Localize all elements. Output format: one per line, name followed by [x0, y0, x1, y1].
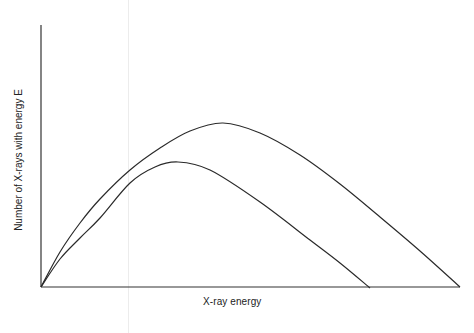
spectrum-chart: [0, 0, 474, 333]
x-axis-label: X-ray energy: [203, 296, 261, 307]
upper-spectrum-curve: [41, 123, 460, 287]
lower-spectrum-curve: [41, 162, 370, 288]
y-axis-label: Number of X-rays with energy E: [13, 89, 24, 231]
